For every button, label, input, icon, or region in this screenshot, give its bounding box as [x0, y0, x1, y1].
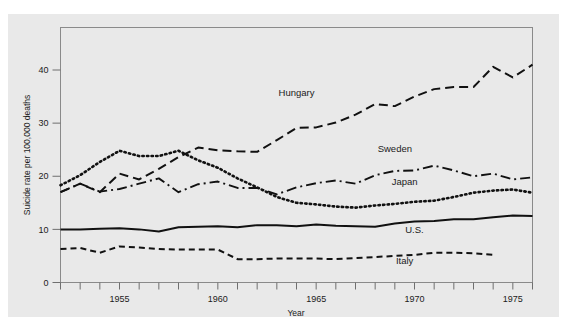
y-axis-title: Suicide rate per 100,000 deaths	[22, 95, 32, 216]
y-tick-label: 20	[38, 171, 48, 181]
x-tick-label: 1960	[208, 294, 228, 304]
x-tick-label: 1970	[404, 294, 424, 304]
line-chart: 010203040 19551960196519701975 HungarySw…	[0, 0, 567, 331]
x-tick-label: 1965	[306, 294, 326, 304]
x-axis-ticks: 19551960196519701975	[61, 283, 533, 304]
series-line-sweden	[61, 166, 533, 195]
series-label-hungary: Hungary	[279, 87, 315, 98]
y-tick-label: 30	[38, 118, 48, 128]
series-label-sweden: Sweden	[378, 143, 412, 154]
y-tick-label: 0	[43, 278, 48, 288]
x-tick-label: 1975	[503, 294, 523, 304]
series-label-italy: Italy	[396, 255, 414, 266]
plot-border	[61, 28, 533, 283]
series-inline-labels: HungarySwedenJapanU.S.Italy	[279, 87, 424, 266]
x-axis-title: Year	[287, 308, 304, 318]
plot-frame	[61, 28, 533, 283]
y-axis-ticks: 010203040	[38, 65, 60, 288]
series-line-italy	[61, 246, 494, 259]
series-line-japan	[61, 151, 533, 208]
figure-container: 010203040 19551960196519701975 HungarySw…	[0, 0, 567, 331]
y-tick-label: 40	[38, 65, 48, 75]
series-label-japan: Japan	[392, 176, 418, 187]
series-line-us	[61, 216, 533, 232]
x-tick-label: 1955	[109, 294, 129, 304]
series-label-us: U.S.	[405, 224, 423, 235]
y-tick-label: 10	[38, 225, 48, 235]
